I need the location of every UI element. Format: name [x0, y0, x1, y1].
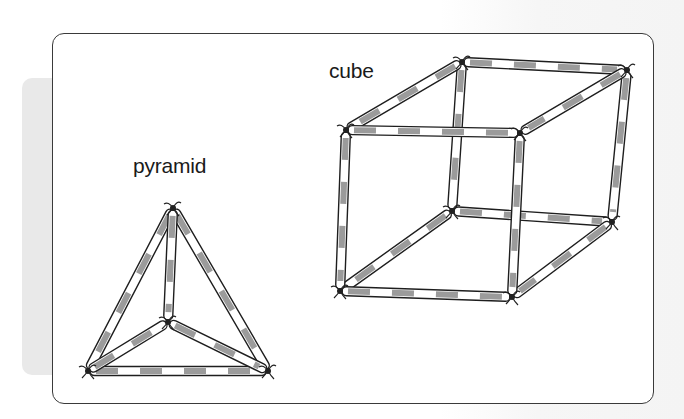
straw — [454, 207, 611, 227]
pyramid-label: pyramid — [133, 154, 206, 178]
straw — [342, 287, 510, 302]
cube-model — [331, 56, 635, 305]
straw — [336, 132, 351, 289]
cube-label: cube — [329, 59, 374, 83]
straw — [519, 67, 627, 136]
straw — [90, 367, 266, 376]
straw — [511, 220, 613, 300]
pyramid-model — [79, 202, 276, 379]
straw — [339, 209, 453, 294]
straw — [348, 126, 518, 138]
straw — [464, 58, 625, 75]
straw — [608, 72, 632, 221]
